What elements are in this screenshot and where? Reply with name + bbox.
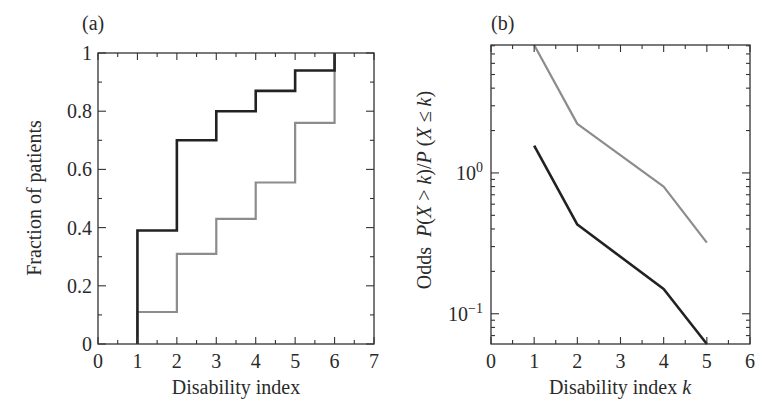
panel-a-y-tick-label: 0.6 [67,158,92,180]
panel-a-y-tick-label: 0.2 [67,275,92,297]
panel-a-x-tick-label: 5 [290,350,300,372]
panel-b-x-tick-label: 3 [616,350,626,372]
panel-b-y-tick-label: 100 [456,160,483,184]
panel-a-x-tick-label: 0 [93,350,103,372]
panel-b-x-tick-label: 2 [572,350,582,372]
panel-b-x-tick-label: 0 [486,350,496,372]
panel-b-light-odds-line [534,45,707,243]
panel-a-x-tick-label: 3 [211,350,221,372]
panel-b-plot-frame [491,45,750,344]
panel-b-x-axis-label-variable: k [682,376,692,398]
panel-b-x-tick-label: 5 [702,350,712,372]
panel-a-x-tick-label: 4 [251,350,261,372]
panel-a-plot-frame [98,53,374,344]
panel-b-y-tick-label: 10−1 [448,301,483,325]
panel-b-ticks: 012345610−1100 [448,45,755,372]
panel-a-ticks: 0123456700.20.40.60.81 [67,42,379,372]
panel-b-dark-odds-line [534,146,707,344]
panel-a-label: (a) [82,12,104,35]
panel-a-y-tick-label: 0.8 [67,100,92,122]
panel-a-x-tick-label: 6 [330,350,340,372]
panel-b-x-axis-label: Disability index k [549,376,692,399]
panel-a-cdf-chart: (a) 0123456700.20.40.60.81 Disability in… [23,12,379,399]
panel-a-x-tick-label: 2 [172,350,182,372]
figure: (a) 0123456700.20.40.60.81 Disability in… [0,0,779,418]
panel-b-x-tick-label: 6 [745,350,755,372]
panel-b-x-tick-label: 4 [659,350,669,372]
panel-a-y-tick-label: 0 [82,333,92,355]
panel-a-y-tick-label: 0.4 [67,217,92,239]
panel-a-x-axis-label: Disability index [172,376,300,399]
figure-canvas: (a) 0123456700.20.40.60.81 Disability in… [0,0,779,418]
panel-a-x-tick-label: 7 [369,350,379,372]
panel-a-light-step-line [137,53,334,344]
panel-b-x-axis-label-text: Disability index [549,376,682,399]
panel-b-y-axis-label: Odds P(X > k)/P (X ≤ k) [413,91,436,289]
panel-a-x-tick-label: 1 [132,350,142,372]
panel-a-dark-step-line [137,53,334,344]
panel-b-series [534,45,707,344]
panel-b-x-tick-label: 1 [529,350,539,372]
panel-b-odds-chart: (b) 012345610−1100 Disability index k Od… [413,12,755,399]
panel-a-y-axis-label: Fraction of patients [23,120,46,276]
panel-a-y-tick-label: 1 [82,42,92,64]
panel-a-series [137,53,334,344]
panel-b-label: (b) [491,12,514,35]
